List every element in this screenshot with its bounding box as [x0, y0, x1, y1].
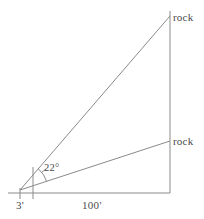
- angle-label: 22°: [44, 163, 59, 174]
- diagram-canvas: rock rock 22° 3' 100': [0, 0, 204, 219]
- rock-upper-label: rock: [173, 12, 193, 23]
- short-dimension-label: 3': [16, 200, 24, 211]
- rock-lower-label: rock: [173, 136, 193, 147]
- lower-sight-line: [20, 141, 170, 190]
- long-dimension-label: 100': [82, 200, 102, 211]
- upper-sight-line: [20, 16, 170, 190]
- diagram-svg: [0, 0, 204, 219]
